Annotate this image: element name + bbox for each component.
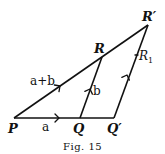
label-point-q: Q xyxy=(73,121,85,136)
label-vector-a: a xyxy=(42,120,49,134)
segment-p-r-prime xyxy=(14,25,148,118)
segment-q-prime-r-prime xyxy=(114,25,148,118)
figure-caption: Fig. 15 xyxy=(63,141,102,152)
label-point-r-prime: R′ xyxy=(141,9,157,24)
label-point-p: P xyxy=(7,121,19,136)
label-vector-a-plus-b: a+b xyxy=(30,74,55,88)
vector-diagram: P Q Q′ R R′ a b a+b R1 Fig. 15 xyxy=(0,0,165,154)
label-point-r: R xyxy=(93,41,105,56)
label-vector-r1: R1 xyxy=(138,49,153,65)
label-vector-b: b xyxy=(93,84,101,98)
label-point-q-prime: Q′ xyxy=(107,121,122,136)
